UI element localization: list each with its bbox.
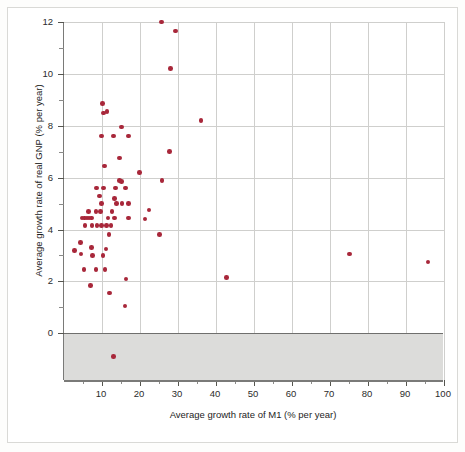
gridline-vertical	[444, 22, 445, 380]
x-tick-label: 30	[157, 389, 197, 399]
data-point	[86, 209, 91, 214]
data-point	[126, 201, 131, 206]
x-tick-label: 70	[309, 389, 349, 399]
data-point	[106, 216, 111, 221]
data-point	[117, 156, 122, 161]
x-tick-label: 10	[81, 389, 121, 399]
data-point	[112, 216, 117, 221]
data-point	[347, 252, 352, 257]
data-point	[90, 253, 95, 258]
data-point	[426, 260, 431, 265]
data-point	[119, 125, 124, 130]
x-tick-label: 40	[195, 389, 235, 399]
gridline-vertical	[140, 22, 141, 380]
y-tick-major	[58, 281, 64, 282]
gridline-horizontal	[64, 281, 444, 282]
y-tick-label: 10	[0, 69, 53, 79]
data-point	[94, 267, 99, 272]
y-tick-major	[58, 230, 64, 231]
data-point	[89, 216, 94, 221]
y-tick-major	[58, 333, 64, 334]
data-point	[101, 186, 106, 191]
gridline-vertical	[216, 22, 217, 380]
data-point	[224, 275, 229, 280]
x-tick-label: 90	[385, 389, 425, 399]
data-point	[90, 223, 95, 228]
gridline-vertical	[406, 22, 407, 380]
x-tick-label: 50	[233, 389, 273, 399]
data-point	[137, 170, 142, 175]
gridline-horizontal	[64, 230, 444, 231]
data-point	[82, 267, 87, 272]
data-point	[103, 267, 108, 272]
gridline-vertical	[330, 22, 331, 380]
y-tick-major	[58, 22, 64, 23]
data-point	[79, 252, 84, 257]
gridline-vertical	[178, 22, 179, 380]
data-point	[101, 253, 106, 258]
x-axis-title: Average growth rate of M1 (% per year)	[63, 409, 443, 420]
y-tick-minor	[59, 100, 64, 101]
gridline-vertical	[368, 22, 369, 380]
data-point	[107, 291, 112, 296]
y-tick-label: 0	[0, 328, 53, 338]
data-point	[143, 217, 148, 222]
data-point	[109, 223, 114, 228]
data-point	[110, 209, 115, 214]
data-point	[113, 186, 118, 191]
data-point	[123, 186, 128, 191]
data-point	[98, 209, 103, 214]
x-tick-label: 60	[271, 389, 311, 399]
data-point	[83, 223, 88, 228]
y-tick-minor	[59, 48, 64, 49]
gridline-horizontal	[64, 22, 444, 23]
data-point	[99, 201, 104, 206]
gridline-vertical	[292, 22, 293, 380]
scatter-plot-figure: 024681012 102030405060708090100 Average …	[0, 0, 465, 452]
data-point	[72, 248, 77, 253]
data-point	[99, 134, 104, 139]
y-tick-minor	[59, 152, 64, 153]
data-point	[119, 179, 124, 184]
negative-region-shading	[64, 333, 443, 380]
data-point	[94, 186, 99, 191]
x-axis-line	[64, 380, 443, 382]
y-tick-label: 4	[0, 225, 53, 235]
gridline-horizontal	[64, 74, 444, 75]
data-point	[105, 109, 110, 114]
y-tick-label: 2	[0, 276, 53, 286]
data-point	[120, 201, 125, 206]
data-point	[114, 201, 119, 206]
data-point	[78, 240, 83, 245]
data-point	[167, 149, 172, 154]
data-point	[159, 20, 164, 25]
y-tick-minor	[59, 255, 64, 256]
plot-area	[63, 22, 443, 380]
data-point	[126, 216, 131, 221]
data-point	[111, 354, 116, 359]
data-point	[168, 66, 173, 71]
data-point	[104, 247, 109, 252]
data-point	[99, 223, 104, 228]
data-point	[157, 232, 162, 237]
y-tick-label: 12	[0, 17, 53, 27]
x-tick-major	[444, 380, 445, 386]
y-tick-major	[58, 178, 64, 179]
y-axis-title: Average growth rate of real GNP (% per y…	[33, 81, 44, 281]
data-point	[160, 178, 165, 183]
data-point	[89, 245, 94, 250]
data-point	[147, 208, 152, 213]
y-tick-minor	[59, 307, 64, 308]
data-point	[112, 196, 117, 201]
data-point	[100, 101, 105, 106]
data-point	[126, 134, 131, 139]
data-point	[107, 232, 112, 237]
gridline-vertical	[254, 22, 255, 380]
y-tick-major	[58, 126, 64, 127]
data-point	[97, 194, 102, 199]
y-tick-label: 6	[0, 173, 53, 183]
x-tick-label: 80	[347, 389, 387, 399]
data-point	[88, 283, 93, 288]
y-tick-minor	[59, 204, 64, 205]
data-point	[124, 277, 129, 282]
